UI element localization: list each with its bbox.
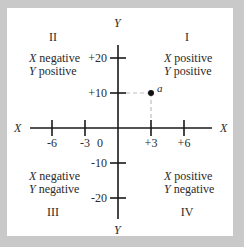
- y-axis-label-top: Y: [114, 17, 121, 30]
- x-axis-label-right: X: [220, 122, 227, 135]
- x-tick-label: +6: [169, 137, 199, 150]
- x-tick-label: -3: [70, 137, 100, 150]
- y-tick-label: +10: [0, 87, 107, 100]
- quadrant-i-description: X positive Y positive: [164, 52, 212, 78]
- x-axis-label-left: X: [14, 122, 21, 135]
- x-tick-label: +3: [136, 137, 166, 150]
- quadrant-ii-description: X negative Y positive: [29, 52, 80, 78]
- quadrant-iv-description: X positive Y negative: [164, 170, 214, 196]
- quadrant-iii-numeral: III: [38, 206, 68, 219]
- coordinate-plane: [0, 0, 244, 247]
- point-a-label: a: [157, 82, 163, 95]
- point-a-marker: [148, 90, 154, 96]
- y-axis-label-bottom: Y: [114, 224, 121, 237]
- quadrant-i-numeral: I: [172, 31, 202, 44]
- quadrant-iii-description: X negative Y negative: [29, 170, 80, 196]
- quadrant-iv-numeral: IV: [172, 206, 202, 219]
- quadrant-ii-numeral: II: [38, 31, 68, 44]
- x-tick-label: -6: [37, 137, 67, 150]
